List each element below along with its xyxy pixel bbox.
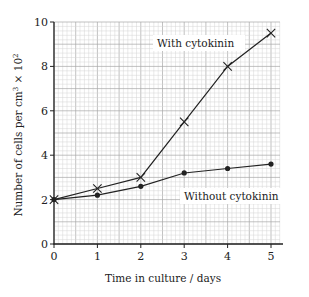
x-tick-label: 3 [181,250,188,263]
line-chart: 012345 0246810 With cytokinin Without cy… [0,0,309,297]
y-tick-label: 4 [41,149,48,162]
x-tick-label: 4 [224,250,231,263]
y-tick-label: 0 [41,238,48,251]
dot-marker [182,170,187,175]
grid [54,22,280,244]
dot-marker [95,193,100,198]
x-tick-label: 2 [137,250,144,263]
annotation-without-cytokinin: Without cytokinin [184,190,279,202]
dot-marker [51,197,56,202]
y-tick-label: 8 [41,60,48,73]
dot-marker [225,166,230,171]
y-tick-label: 6 [41,105,48,118]
y-axis-ticks: 0246810 [34,16,54,251]
x-tick-label: 5 [268,250,275,263]
dot-marker [268,161,273,166]
x-tick-label: 1 [94,250,101,263]
annotation-with-cytokinin: With cytokinin [157,37,234,49]
x-tick-label: 0 [51,250,58,263]
x-axis-title: Time in culture / days [105,272,221,284]
dot-marker [138,184,143,189]
y-tick-label: 2 [41,194,48,207]
y-axis-title: Number of cells per cm3 × 102 [12,53,24,216]
y-tick-label: 10 [34,16,48,29]
x-axis-ticks: 012345 [51,244,275,263]
